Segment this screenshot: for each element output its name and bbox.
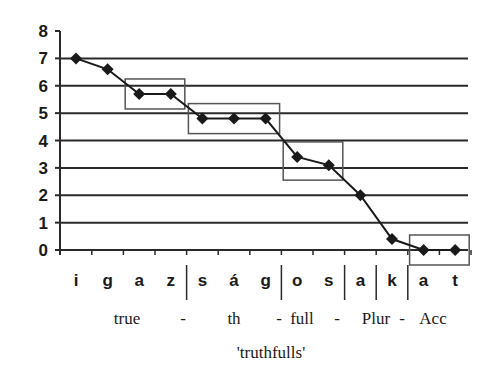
y-tick-label: 1: [39, 214, 48, 233]
gridlines: [60, 58, 468, 222]
pitch-contour-chart: 012345678 igazságosakat true-th-full-Plu…: [0, 0, 492, 379]
gloss-morpheme: full: [290, 309, 314, 328]
x-category-label: g: [260, 271, 270, 290]
x-category-label: a: [134, 271, 144, 290]
diamond-marker: [70, 52, 82, 64]
y-tick-label: 3: [39, 159, 48, 178]
gloss-morpheme: Acc: [419, 309, 447, 328]
x-category-label: i: [74, 271, 79, 290]
y-tick-label: 5: [39, 104, 48, 123]
gloss-separator: -: [334, 309, 340, 328]
gloss-separator: -: [180, 309, 186, 328]
y-tick-label: 8: [39, 22, 48, 41]
x-category-label: o: [292, 271, 302, 290]
axes: [55, 31, 471, 255]
x-category-label: s: [198, 271, 207, 290]
y-axis-tick-labels: 012345678: [39, 22, 49, 260]
y-tick-label: 2: [39, 186, 48, 205]
gloss-morpheme: true: [114, 309, 140, 328]
y-tick-label: 7: [39, 49, 48, 68]
x-category-label: z: [167, 271, 176, 290]
series-line: [76, 58, 455, 250]
x-category-label: a: [419, 271, 429, 290]
diamond-marker: [228, 113, 240, 125]
gloss-separator: -: [276, 309, 282, 328]
translation-label: 'truthfulls': [237, 343, 305, 362]
x-category-label: g: [102, 271, 112, 290]
x-axis-category-labels: igazságosakat: [74, 265, 459, 300]
data-series: [70, 52, 461, 256]
x-category-label: k: [387, 271, 397, 290]
y-tick-label: 6: [39, 77, 48, 96]
x-category-label: t: [452, 271, 458, 290]
gloss-separator: -: [399, 309, 405, 328]
y-tick-label: 0: [39, 241, 48, 260]
highlight-boxes: [125, 79, 469, 265]
gloss-morpheme: Plur: [362, 309, 391, 328]
x-category-label: a: [356, 271, 366, 290]
x-category-label: s: [324, 271, 333, 290]
y-tick-label: 4: [39, 132, 49, 151]
gloss-morpheme: th: [227, 309, 241, 328]
gloss-line: true-th-full-Plur-Acc: [114, 309, 447, 328]
diamond-marker: [418, 244, 430, 256]
x-category-label: á: [229, 271, 239, 290]
diamond-marker: [449, 244, 461, 256]
